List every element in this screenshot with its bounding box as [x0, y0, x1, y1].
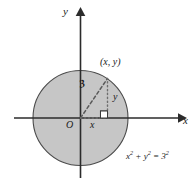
circle-equation-label: x2 + y2 = 32 [126, 150, 169, 161]
equation-equals-sign: = [151, 151, 162, 161]
equation-operator-plus: + [133, 151, 144, 161]
circle-equation-figure: y x O (x, y) 3 x y x2 + y2 = 32 [0, 0, 194, 185]
leg-y-label: y [113, 92, 117, 102]
y-axis-arrowhead [76, 7, 86, 16]
origin-label: O [66, 120, 73, 130]
leg-x-label: x [90, 120, 94, 130]
y-axis-label: y [63, 6, 68, 17]
equation-rhs-exponent: 2 [166, 150, 169, 156]
point-coordinate-label: (x, y) [100, 57, 121, 67]
x-axis-label: x [183, 115, 188, 126]
right-angle-marker-fill [101, 111, 108, 118]
